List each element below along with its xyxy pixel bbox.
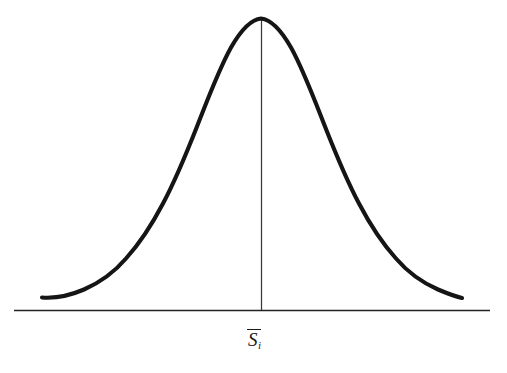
bell-curve-figure: Si	[0, 0, 507, 373]
mean-symbol: S	[248, 330, 258, 349]
mean-subscript: i	[258, 339, 261, 351]
x-axis-label: Si	[0, 330, 507, 351]
overbar-icon	[247, 329, 261, 330]
bell-curve-canvas	[0, 0, 507, 373]
mean-symbol-group: Si	[246, 330, 261, 351]
normal-distribution-curve	[42, 19, 462, 299]
